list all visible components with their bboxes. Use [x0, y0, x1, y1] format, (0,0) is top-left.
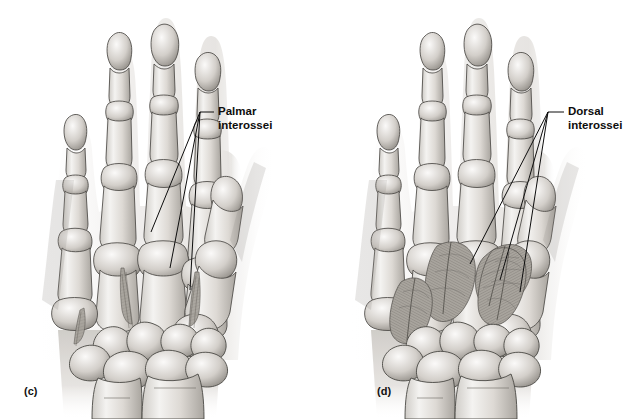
callout-palmar-interossei: Palmar interossei: [218, 105, 272, 132]
metacarpal-bones-palmar: [96, 270, 139, 332]
callout-dorsal-interossei: Dorsal interossei: [568, 105, 622, 132]
hand-skeleton-dorsal-illustration: [317, 0, 634, 419]
callout-dorsal-line1: Dorsal: [568, 105, 622, 119]
panel-label-d: (d): [377, 385, 391, 397]
panel-label-c: (c): [24, 385, 37, 397]
callout-palmar-line1: Palmar: [218, 105, 272, 119]
hand-skeleton-palmar-illustration: [0, 0, 317, 419]
callout-dorsal-line2: interossei: [568, 119, 622, 133]
panel-dorsal-view: (d): [317, 0, 634, 419]
callout-palmar-line2: interossei: [218, 119, 272, 133]
anatomy-figure: (c): [0, 0, 634, 419]
panel-palmar-view: (c): [0, 0, 317, 419]
